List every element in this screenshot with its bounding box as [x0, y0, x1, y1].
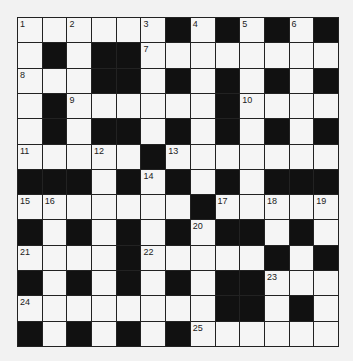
answer-cell[interactable] — [141, 322, 165, 346]
answer-cell[interactable]: 3 — [141, 18, 165, 42]
answer-cell[interactable] — [92, 246, 116, 270]
answer-cell[interactable]: 1 — [18, 18, 42, 42]
answer-cell[interactable] — [18, 43, 42, 67]
answer-cell[interactable]: 4 — [191, 18, 215, 42]
answer-cell[interactable] — [43, 322, 67, 346]
answer-cell[interactable] — [290, 322, 314, 346]
answer-cell[interactable] — [67, 296, 91, 320]
answer-cell[interactable] — [290, 69, 314, 93]
answer-cell[interactable] — [191, 145, 215, 169]
answer-cell[interactable] — [240, 322, 264, 346]
answer-cell[interactable]: 24 — [18, 296, 42, 320]
answer-cell[interactable] — [18, 94, 42, 118]
answer-cell[interactable] — [92, 322, 116, 346]
answer-cell[interactable] — [43, 145, 67, 169]
answer-cell[interactable] — [240, 170, 264, 194]
answer-cell[interactable]: 2 — [67, 18, 91, 42]
answer-cell[interactable] — [314, 94, 338, 118]
answer-cell[interactable] — [18, 119, 42, 143]
answer-cell[interactable] — [92, 220, 116, 244]
answer-cell[interactable]: 13 — [166, 145, 190, 169]
answer-cell[interactable] — [191, 43, 215, 67]
answer-cell[interactable] — [216, 322, 240, 346]
answer-cell[interactable]: 18 — [265, 195, 289, 219]
answer-cell[interactable] — [191, 246, 215, 270]
answer-cell[interactable] — [314, 145, 338, 169]
answer-cell[interactable] — [141, 271, 165, 295]
answer-cell[interactable] — [141, 220, 165, 244]
answer-cell[interactable]: 16 — [43, 195, 67, 219]
answer-cell[interactable] — [240, 246, 264, 270]
answer-cell[interactable] — [240, 195, 264, 219]
answer-cell[interactable]: 5 — [240, 18, 264, 42]
answer-cell[interactable] — [191, 271, 215, 295]
answer-cell[interactable] — [290, 145, 314, 169]
answer-cell[interactable] — [166, 246, 190, 270]
answer-cell[interactable]: 12 — [92, 145, 116, 169]
answer-cell[interactable]: 25 — [191, 322, 215, 346]
answer-cell[interactable] — [314, 220, 338, 244]
answer-cell[interactable] — [191, 69, 215, 93]
answer-cell[interactable] — [166, 94, 190, 118]
answer-cell[interactable] — [92, 195, 116, 219]
answer-cell[interactable] — [67, 246, 91, 270]
answer-cell[interactable] — [92, 94, 116, 118]
answer-cell[interactable]: 15 — [18, 195, 42, 219]
answer-cell[interactable] — [290, 94, 314, 118]
answer-cell[interactable] — [265, 322, 289, 346]
answer-cell[interactable] — [43, 18, 67, 42]
answer-cell[interactable] — [290, 119, 314, 143]
answer-cell[interactable]: 10 — [240, 94, 264, 118]
answer-cell[interactable] — [191, 119, 215, 143]
answer-cell[interactable] — [43, 271, 67, 295]
answer-cell[interactable] — [216, 246, 240, 270]
answer-cell[interactable] — [290, 271, 314, 295]
answer-cell[interactable] — [290, 246, 314, 270]
answer-cell[interactable] — [216, 145, 240, 169]
answer-cell[interactable] — [166, 195, 190, 219]
answer-cell[interactable] — [92, 18, 116, 42]
answer-cell[interactable]: 17 — [216, 195, 240, 219]
answer-cell[interactable] — [216, 43, 240, 67]
answer-cell[interactable] — [67, 69, 91, 93]
answer-cell[interactable] — [265, 220, 289, 244]
answer-cell[interactable] — [314, 271, 338, 295]
answer-cell[interactable] — [314, 43, 338, 67]
answer-cell[interactable] — [67, 145, 91, 169]
answer-cell[interactable]: 21 — [18, 246, 42, 270]
answer-cell[interactable] — [191, 296, 215, 320]
answer-cell[interactable]: 23 — [265, 271, 289, 295]
answer-cell[interactable] — [191, 94, 215, 118]
answer-cell[interactable]: 9 — [67, 94, 91, 118]
answer-cell[interactable] — [43, 69, 67, 93]
answer-cell[interactable] — [240, 43, 264, 67]
answer-cell[interactable] — [92, 296, 116, 320]
answer-cell[interactable] — [43, 246, 67, 270]
answer-cell[interactable] — [117, 94, 141, 118]
answer-cell[interactable]: 7 — [141, 43, 165, 67]
answer-cell[interactable] — [191, 170, 215, 194]
answer-cell[interactable] — [265, 43, 289, 67]
answer-cell[interactable] — [117, 145, 141, 169]
answer-cell[interactable]: 8 — [18, 69, 42, 93]
answer-cell[interactable] — [141, 195, 165, 219]
answer-cell[interactable]: 19 — [314, 195, 338, 219]
answer-cell[interactable] — [67, 195, 91, 219]
answer-cell[interactable] — [265, 94, 289, 118]
answer-cell[interactable] — [240, 119, 264, 143]
answer-cell[interactable] — [240, 145, 264, 169]
answer-cell[interactable] — [166, 43, 190, 67]
answer-cell[interactable]: 14 — [141, 170, 165, 194]
answer-cell[interactable] — [166, 296, 190, 320]
answer-cell[interactable] — [141, 94, 165, 118]
answer-cell[interactable] — [265, 296, 289, 320]
answer-cell[interactable]: 6 — [290, 18, 314, 42]
answer-cell[interactable] — [117, 18, 141, 42]
answer-cell[interactable] — [43, 220, 67, 244]
answer-cell[interactable] — [43, 296, 67, 320]
answer-cell[interactable] — [141, 119, 165, 143]
answer-cell[interactable] — [67, 43, 91, 67]
answer-cell[interactable] — [314, 322, 338, 346]
answer-cell[interactable] — [141, 296, 165, 320]
answer-cell[interactable] — [290, 195, 314, 219]
